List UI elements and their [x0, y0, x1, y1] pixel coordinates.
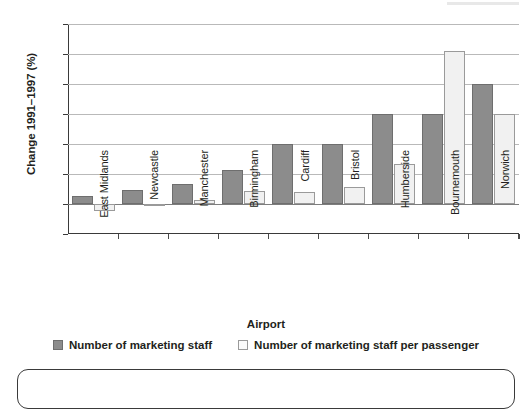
- y-axis-line: [68, 24, 69, 234]
- x-tick-mark-8: [518, 234, 519, 239]
- x-category-label-birmingham: Birmingham: [248, 150, 260, 240]
- x-category-label-cardiff: Cardiff: [299, 150, 311, 240]
- gridline-600: [68, 24, 519, 25]
- bar-cardiff-series1: [272, 144, 293, 204]
- x-tick-mark-6: [418, 234, 419, 239]
- y-tick-mark-300: [63, 114, 68, 115]
- y-tick-mark-600: [63, 24, 68, 25]
- x-tick-mark-0: [118, 234, 119, 239]
- bar-newcastle-series1: [122, 190, 143, 204]
- x-tick-mark-3: [268, 234, 269, 239]
- y-tick-mark-500: [63, 54, 68, 55]
- x-category-label-bristol: Bristol: [349, 150, 361, 240]
- y-axis-title: Change 1991–1997 (%): [25, 14, 41, 214]
- x-tick-mark-4: [318, 234, 319, 239]
- legend-swatch-light: [238, 340, 248, 350]
- y-tick-mark-0: [63, 204, 68, 205]
- bar-east-midlands-series1: [72, 196, 93, 204]
- x-axis-title: Airport: [0, 318, 532, 330]
- bar-manchester-series1: [172, 184, 193, 204]
- x-category-label-norwich: Norwich: [499, 150, 511, 240]
- legend-item-1: Number of marketing staff: [53, 339, 212, 351]
- x-category-label-bournemouth: Bournemouth: [449, 150, 461, 240]
- y-tick-mark-100: [63, 174, 68, 175]
- bar-norwich-series1: [472, 84, 493, 204]
- bottom-panel-outline: [17, 369, 515, 409]
- legend-label-2: Number of marketing staff per passenger: [254, 339, 479, 351]
- legend-swatch-dark: [53, 340, 63, 350]
- bar-bristol-series1: [322, 144, 343, 204]
- x-category-label-east-midlands: East Midlands: [98, 150, 110, 240]
- x-tick-mark-7: [468, 234, 469, 239]
- y-tick-mark-200: [63, 144, 68, 145]
- bar-birmingham-series1: [222, 170, 243, 205]
- y-tick-mark--100: [63, 234, 68, 235]
- x-tick-mark-2: [218, 234, 219, 239]
- y-tick-mark-400: [63, 84, 68, 85]
- legend-item-2: Number of marketing staff per passenger: [238, 339, 479, 351]
- x-category-label-humberside: Humberside: [399, 150, 411, 240]
- x-tick-mark-5: [368, 234, 369, 239]
- legend-label-1: Number of marketing staff: [69, 339, 212, 351]
- top-edge-artifact: [447, 2, 519, 5]
- bar-bournemouth-series1: [422, 114, 443, 204]
- bar-humberside-series1: [372, 114, 393, 204]
- x-category-label-newcastle: Newcastle: [148, 150, 160, 240]
- chart-legend: Number of marketing staffNumber of marke…: [0, 339, 532, 351]
- x-category-label-manchester: Manchester: [198, 150, 210, 240]
- x-tick-mark-1: [168, 234, 169, 239]
